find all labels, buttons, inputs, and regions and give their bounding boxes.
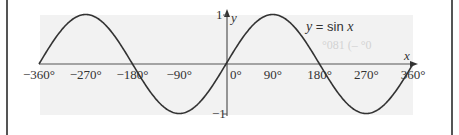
x-tick-label: 180° bbox=[307, 67, 332, 82]
x-tick-label: 0° bbox=[230, 67, 242, 82]
x-tick-label: −90° bbox=[166, 67, 192, 82]
x-tick-label: 270° bbox=[354, 67, 379, 82]
y-axis-arrow-icon bbox=[224, 9, 230, 17]
x-tick-label: −360° bbox=[23, 67, 55, 82]
y-axis-label: y bbox=[229, 10, 237, 25]
y-tick-label-1: 1 bbox=[216, 7, 223, 22]
x-tick-label: 360° bbox=[401, 67, 426, 82]
bleed-through-text: °081 (– °0 bbox=[322, 38, 372, 52]
curve-equation-label: y = sin x bbox=[304, 19, 354, 34]
x-tick-label: 90° bbox=[264, 67, 282, 82]
x-tick-label: −270° bbox=[70, 67, 102, 82]
x-axis-label: x bbox=[403, 48, 410, 63]
sine-chart: °081 (– °0 −360°−270°−180°−90°0°90°180°2… bbox=[0, 0, 459, 135]
y-tick-label-minus-1: −1 bbox=[212, 106, 226, 121]
x-tick-label: −180° bbox=[116, 67, 148, 82]
